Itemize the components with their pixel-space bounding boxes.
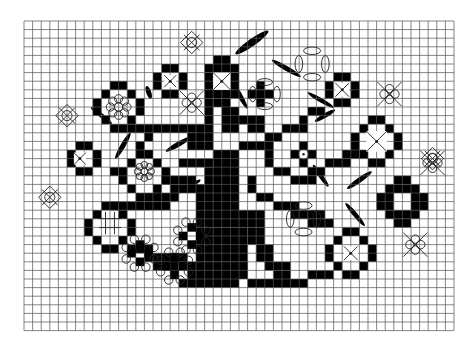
stitch-block	[119, 210, 128, 219]
stitch-block	[325, 159, 351, 168]
stitch-block	[334, 236, 343, 245]
cross-x-icon	[74, 153, 86, 165]
stitch-block	[248, 90, 274, 99]
stitch-block	[127, 116, 136, 125]
stitch-block	[179, 279, 239, 288]
cross-stitch-chart	[0, 0, 476, 348]
quatrefoil-x-icon	[180, 91, 204, 115]
cross-x-icon	[366, 131, 387, 152]
stitch-block	[334, 262, 343, 271]
stitch-block	[308, 270, 334, 279]
diamond-x-icon	[181, 31, 203, 53]
stitch-block	[291, 176, 317, 185]
stitch-block	[265, 262, 291, 271]
leaf-icon	[113, 131, 132, 159]
stitch-block	[110, 202, 170, 211]
cross-x-icon	[344, 246, 358, 260]
leaf-icon	[344, 202, 367, 228]
leaf-icon	[144, 85, 153, 99]
grid-lines	[24, 21, 454, 331]
cross-x-icon	[335, 83, 349, 97]
stitch-block	[101, 90, 110, 99]
cross-x-icon	[213, 73, 230, 90]
stitch-block	[110, 167, 119, 176]
stitch-block	[127, 159, 136, 168]
quatrefoil-x-icon	[420, 151, 444, 175]
stitch-block	[93, 210, 102, 219]
quatrefoil-x-icon	[377, 82, 401, 106]
stitch-block	[127, 184, 136, 193]
dot-ring-icon	[298, 149, 308, 159]
stitch-block	[359, 262, 368, 271]
stitch-block	[127, 90, 136, 99]
stitch-block	[239, 116, 265, 125]
stitch-block	[153, 184, 162, 193]
stitch-block	[144, 133, 153, 142]
leaf-icon	[271, 58, 302, 79]
stitch-block	[153, 159, 162, 168]
stitch-block	[205, 98, 214, 124]
stitch-block	[248, 279, 308, 288]
stitch-block	[93, 236, 102, 245]
stitch-block	[136, 141, 145, 150]
cross-x-icon	[164, 75, 176, 87]
stitch-block	[359, 236, 368, 245]
